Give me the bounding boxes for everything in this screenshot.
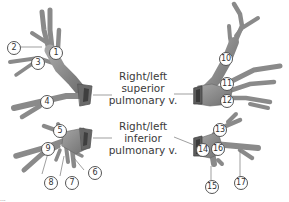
label-line: inferior — [108, 132, 178, 144]
marker-13: 13 — [213, 123, 227, 137]
marker-1: 1 — [49, 46, 63, 60]
label-line: Right/left — [108, 70, 178, 82]
label-line: superior — [108, 82, 178, 94]
marker-9: 9 — [41, 142, 55, 156]
marker-11: 11 — [220, 77, 234, 91]
marker-14: 14 — [196, 143, 210, 157]
marker-17: 17 — [234, 176, 248, 190]
marker-10: 10 — [219, 52, 233, 66]
label-line: pulmonary v. — [108, 94, 178, 106]
label-line: pulmonary v. — [108, 144, 178, 156]
pulmonary-veins-diagram: Right/left superior pulmonary v. Right/l… — [0, 0, 289, 202]
leader-lines — [20, 47, 240, 180]
marker-16: 16 — [211, 142, 225, 156]
superior-pulmonary-vein-label: Right/left superior pulmonary v. — [108, 70, 178, 106]
marker-3: 3 — [31, 56, 45, 70]
marker-5: 5 — [53, 124, 67, 138]
marker-12: 12 — [220, 94, 234, 108]
label-line: Right/left — [108, 120, 178, 132]
marker-8: 8 — [44, 176, 58, 190]
inferior-pulmonary-vein-label: Right/left inferior pulmonary v. — [108, 120, 178, 156]
marker-4: 4 — [40, 95, 54, 109]
marker-15: 15 — [205, 180, 219, 194]
marker-6: 6 — [88, 166, 102, 180]
marker-7: 7 — [65, 176, 79, 190]
corner-mark: ... — [0, 195, 6, 202]
marker-2: 2 — [7, 41, 21, 55]
